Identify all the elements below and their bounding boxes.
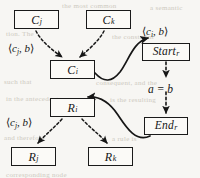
node-label-subscript: j <box>40 18 42 26</box>
node-r-k[interactable]: Rk <box>88 147 133 166</box>
call-pair-rest: , b <box>19 42 30 54</box>
edge-label-call-pair-right-top: ⟨ci, b⟩ <box>142 26 168 37</box>
node-c-j[interactable]: Cj <box>14 10 59 29</box>
node-c-k[interactable]: Ck <box>86 10 131 29</box>
edge-label-call-pair-left-top: ⟨cj, b⟩ <box>8 43 34 54</box>
node-label-base: C <box>31 14 39 26</box>
edge-ri-to-rj <box>38 119 62 143</box>
edge-ci-to-startr <box>95 38 148 80</box>
node-label-subscript: k <box>111 18 115 26</box>
call-pair-rest: , b <box>153 25 164 37</box>
figure-container: the most common a semantic tion. The the… <box>0 0 200 178</box>
node-label-subscript: r <box>176 50 179 58</box>
node-label-base: C <box>103 14 111 26</box>
angle-bracket-close: ⟩ <box>164 25 168 37</box>
node-label-base: End <box>155 120 174 132</box>
node-r-j[interactable]: Rj <box>11 147 56 166</box>
call-pair-rest: , b <box>17 116 28 128</box>
edge-ck-to-ci <box>80 31 104 57</box>
node-label-subscript: k <box>113 155 117 163</box>
call-pair-subscript: j <box>17 47 19 56</box>
edge-label-call-pair-left-bottom: ⟨cj, b⟩ <box>6 117 32 128</box>
node-label-base: Start <box>153 46 176 58</box>
edge-ri-to-rk <box>82 119 107 143</box>
node-label-base: R <box>105 151 113 163</box>
angle-bracket-close: ⟩ <box>30 42 34 54</box>
edge-endr-to-ri <box>88 97 150 138</box>
angle-bracket-close: ⟩ <box>28 116 32 128</box>
node-label-base: R <box>68 102 76 114</box>
node-label-subscript: i <box>75 106 77 114</box>
node-label-subscript: i <box>76 68 78 76</box>
edge-label-condition: a = b <box>148 84 173 96</box>
node-label-base: C <box>67 64 75 76</box>
node-r-i[interactable]: Ri <box>50 98 95 117</box>
edge-cj-to-ci <box>36 31 62 57</box>
node-label-subscript: r <box>174 124 177 132</box>
call-pair-subscript: j <box>15 121 17 130</box>
node-label-subscript: j <box>36 155 38 163</box>
node-c-i[interactable]: Ci <box>50 60 95 79</box>
call-pair-subscript: i <box>151 30 153 39</box>
node-end-r[interactable]: Endr <box>144 117 188 135</box>
node-label-base: R <box>29 151 37 163</box>
node-start-r[interactable]: Startr <box>142 43 190 61</box>
